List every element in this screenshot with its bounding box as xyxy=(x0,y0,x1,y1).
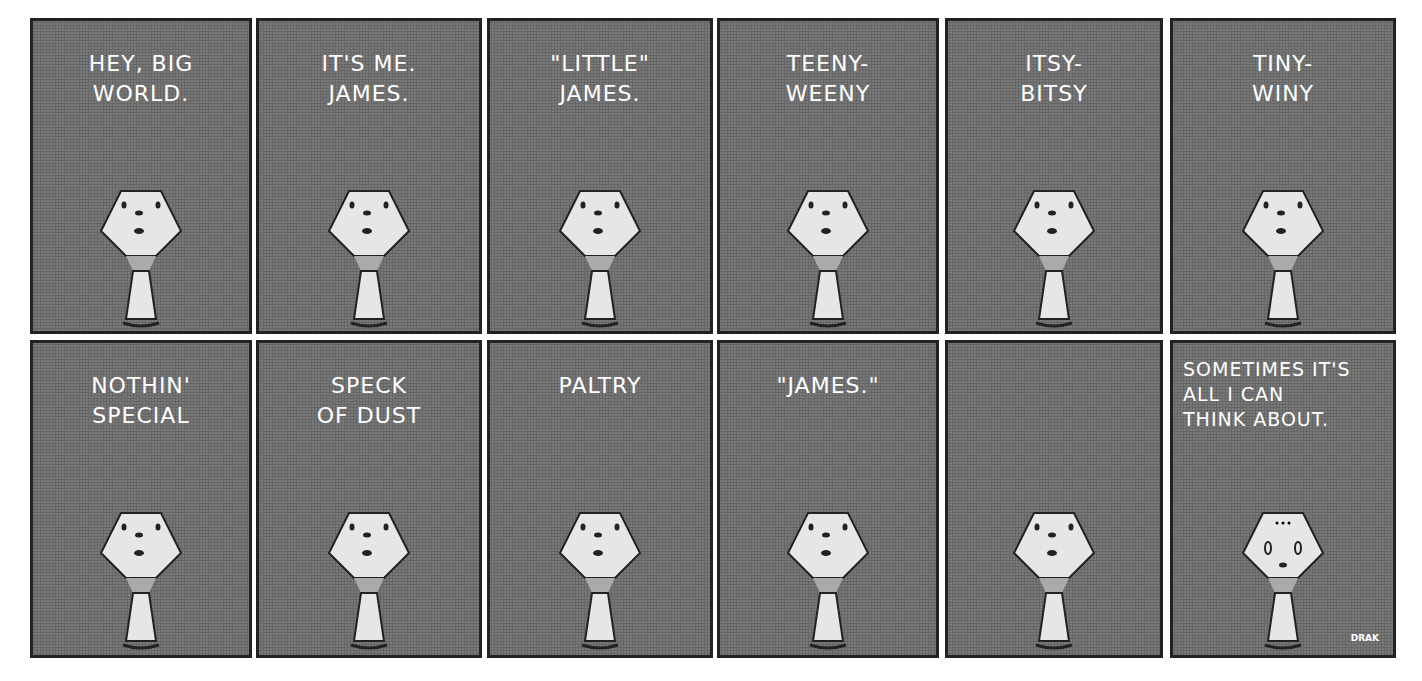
james-figure-icon xyxy=(550,171,650,331)
panel-caption: NOTHIN' SPECIAL xyxy=(33,371,249,431)
panel-caption: SPECK OF DUST xyxy=(259,371,479,431)
comic-panel-10: "JAMES." xyxy=(717,340,939,658)
panel-caption: "LITTLE" JAMES. xyxy=(490,49,710,109)
james-figure-icon xyxy=(1233,171,1333,331)
comic-panel-9: PALTRY xyxy=(487,340,713,658)
comic-panel-1: HEY, BIG WORLD. xyxy=(30,18,252,334)
comic-panel-3: "LITTLE" JAMES. xyxy=(487,18,713,334)
panel-caption: HEY, BIG WORLD. xyxy=(33,49,249,109)
comic-panel-11 xyxy=(945,340,1163,658)
comic-panel-7: NOTHIN' SPECIAL xyxy=(30,340,252,658)
panel-caption: "JAMES." xyxy=(720,371,936,401)
james-figure-icon xyxy=(319,171,419,331)
comic-panel-8: SPECK OF DUST xyxy=(256,340,482,658)
panel-caption: IT'S ME. JAMES. xyxy=(259,49,479,109)
panel-caption: PALTRY xyxy=(490,371,710,401)
james-figure-icon xyxy=(1004,493,1104,653)
james-figure-icon xyxy=(778,493,878,653)
comic-panel-12: SOMETIMES IT'S ALL I CAN THINK ABOUT. DR… xyxy=(1170,340,1396,658)
comic-panel-5: ITSY- BITSY xyxy=(945,18,1163,334)
panel-caption: TINY- WINY xyxy=(1173,49,1393,109)
james-figure-icon xyxy=(91,493,191,653)
comic-panel-2: IT'S ME. JAMES. xyxy=(256,18,482,334)
james-figure-icon xyxy=(1004,171,1104,331)
james-figure-icon xyxy=(550,493,650,653)
james-figure-icon xyxy=(319,493,419,653)
comic-panel-4: TEENY- WEENY xyxy=(717,18,939,334)
james-figure-icon xyxy=(91,171,191,331)
panel-caption: ITSY- BITSY xyxy=(948,49,1160,109)
artist-signature: DRAK xyxy=(1351,633,1379,643)
panel-caption: SOMETIMES IT'S ALL I CAN THINK ABOUT. xyxy=(1173,357,1393,432)
comic-panel-6: TINY- WINY xyxy=(1170,18,1396,334)
panel-caption: TEENY- WEENY xyxy=(720,49,936,109)
james-figure-icon xyxy=(1233,493,1333,653)
james-figure-icon xyxy=(778,171,878,331)
